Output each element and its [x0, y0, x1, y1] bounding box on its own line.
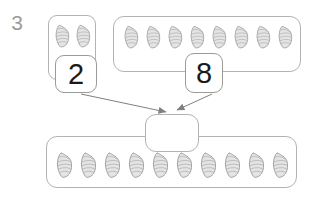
seashell-icon [198, 149, 217, 181]
seashell-icon [53, 22, 70, 50]
seashell-icon [232, 22, 249, 52]
seashell-icon [102, 149, 121, 181]
seashell-icon [270, 149, 289, 181]
addend1-shell-group [49, 16, 95, 50]
addend2-shell-group [114, 17, 300, 52]
addend1-value: 2 [68, 58, 84, 91]
addend2-value: 8 [196, 57, 212, 90]
arrow-from-addend1 [81, 94, 166, 112]
seashell-icon [276, 22, 293, 52]
seashell-icon [74, 22, 91, 50]
seashell-icon [166, 22, 183, 52]
arrow-from-addend2 [177, 94, 212, 110]
worksheet-page: 3 [0, 0, 315, 208]
seashell-icon [126, 149, 145, 181]
seashell-icon [144, 22, 161, 52]
seashell-icon [246, 149, 265, 181]
seashell-icon [254, 22, 271, 52]
answer-box[interactable] [145, 114, 199, 152]
seashell-icon [222, 149, 241, 181]
addend2-number-box: 8 [185, 53, 223, 93]
question-number: 3 [8, 12, 26, 34]
seashell-icon [122, 22, 139, 52]
seashell-icon [174, 149, 193, 181]
seashell-icon [54, 149, 73, 181]
seashell-icon [210, 22, 227, 52]
seashell-icon [150, 149, 169, 181]
seashell-icon [78, 149, 97, 181]
seashell-icon [188, 22, 205, 52]
addend1-number-box: 2 [55, 55, 97, 93]
